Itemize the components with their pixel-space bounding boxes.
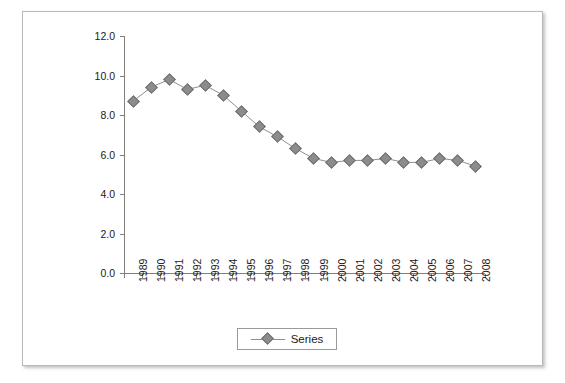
plot-area: 12.010.08.06.04.02.00.019891990199119921… [23, 12, 544, 367]
chart-screenshot: 12.010.08.06.04.02.00.019891990199119921… [0, 0, 565, 383]
legend-diamond-icon [261, 332, 274, 345]
chart-legend[interactable]: Series [237, 328, 337, 350]
legend-sample [251, 333, 285, 345]
chart-frame: 12.010.08.06.04.02.00.019891990199119921… [22, 11, 543, 366]
legend-label: Series [291, 333, 324, 345]
series-line-layer [23, 12, 544, 367]
